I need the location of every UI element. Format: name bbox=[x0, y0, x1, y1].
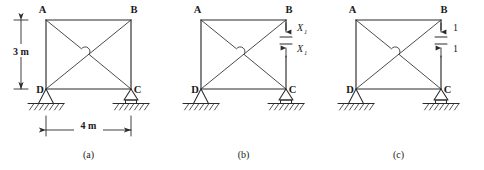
joint-label-A: A bbox=[39, 4, 47, 15]
joint-label-A: A bbox=[194, 4, 202, 15]
caption-c: (c) bbox=[393, 149, 404, 161]
force-label-X1-lower: X bbox=[296, 43, 304, 54]
force-label-unit-upper: 1 bbox=[453, 22, 458, 33]
caption-b: (b) bbox=[238, 149, 250, 161]
ground-hatching bbox=[340, 104, 375, 111]
joint-label-D: D bbox=[191, 84, 199, 95]
panel-b: X 1 X 1 bbox=[183, 4, 307, 161]
ground-hatching bbox=[270, 104, 305, 111]
dimension-height-label: 3 m bbox=[13, 46, 30, 57]
roller-support-C-b bbox=[268, 89, 304, 110]
ground-hatching bbox=[30, 104, 65, 111]
force-label-unit-lower: 1 bbox=[453, 43, 458, 54]
panel-a: 3 m 4 m A B D C (a) bbox=[9, 4, 149, 161]
force-pair-X1-b: X 1 X 1 bbox=[280, 22, 307, 57]
joint-label-C: C bbox=[289, 84, 297, 95]
force-label-upper: X 1 bbox=[296, 22, 307, 35]
ground-hatching bbox=[115, 104, 150, 111]
joint-label-D: D bbox=[36, 84, 44, 95]
caption-a: (a) bbox=[83, 149, 94, 161]
ground-hatching bbox=[185, 104, 220, 111]
dimension-span-label: 4 m bbox=[81, 120, 98, 131]
truss-figure-svg: 3 m 4 m A B D C (a) bbox=[0, 0, 484, 170]
joint-label-B: B bbox=[285, 4, 292, 15]
force-label-X1-upper: X bbox=[296, 22, 304, 33]
pin-support-D-a bbox=[28, 89, 64, 110]
joint-label-B: B bbox=[130, 4, 137, 15]
panel-c: 1 1 bbox=[338, 4, 459, 161]
joint-label-B: B bbox=[440, 4, 447, 15]
roller-support-C-c bbox=[423, 89, 459, 110]
ground-hatching bbox=[425, 104, 460, 111]
force-pair-unit-c: 1 1 bbox=[435, 22, 458, 57]
joint-label-C: C bbox=[134, 84, 142, 95]
pin-support-D-b bbox=[183, 89, 219, 110]
frame-members-c bbox=[356, 20, 441, 89]
dimension-height-a: 3 m bbox=[9, 20, 33, 89]
joint-label-C: C bbox=[444, 84, 452, 95]
figure-root: 3 m 4 m A B D C (a) bbox=[0, 0, 484, 170]
force-label-X1-upper-subscript: 1 bbox=[304, 28, 307, 35]
dimension-span-a: 4 m bbox=[46, 116, 131, 136]
force-label-X1-lower-subscript: 1 bbox=[304, 49, 307, 56]
joint-label-A: A bbox=[349, 4, 357, 15]
joint-label-D: D bbox=[346, 84, 354, 95]
frame-members-b bbox=[201, 20, 286, 89]
roller-support-C-a bbox=[113, 89, 149, 110]
pin-support-D-c bbox=[338, 89, 374, 110]
frame-members-a bbox=[46, 20, 131, 89]
force-label-lower: X 1 bbox=[296, 43, 307, 56]
